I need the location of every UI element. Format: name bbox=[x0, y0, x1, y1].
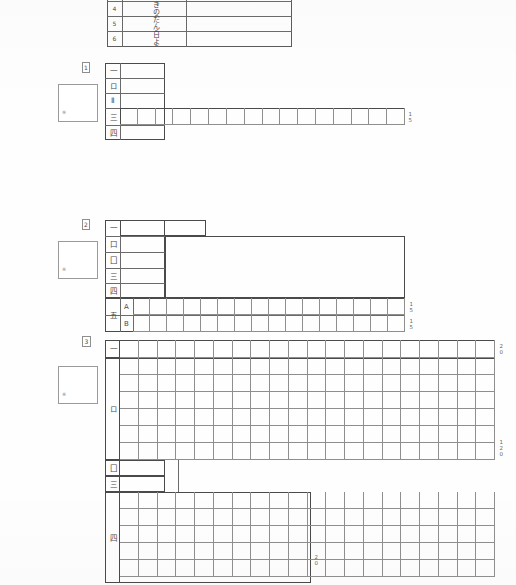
answer-cell[interactable] bbox=[326, 492, 345, 509]
answer-cell[interactable] bbox=[388, 315, 405, 332]
answer-cell[interactable] bbox=[176, 443, 195, 460]
answer-cell[interactable] bbox=[176, 492, 195, 509]
answer-cell[interactable] bbox=[371, 315, 388, 332]
answer-cell[interactable] bbox=[308, 426, 327, 443]
answer-cell[interactable] bbox=[251, 358, 270, 375]
answer-cell[interactable] bbox=[345, 426, 364, 443]
answer-cell[interactable] bbox=[371, 298, 388, 315]
answer-cell[interactable] bbox=[364, 509, 383, 526]
answer-cell[interactable] bbox=[214, 443, 233, 460]
block-two-right-panel[interactable] bbox=[165, 236, 405, 298]
answer-cell[interactable] bbox=[439, 543, 458, 560]
answer-cell[interactable] bbox=[158, 560, 177, 577]
answer-cell[interactable] bbox=[120, 509, 139, 526]
answer-cell[interactable] bbox=[195, 392, 214, 409]
answer-cell[interactable] bbox=[214, 409, 233, 426]
answer-cell[interactable] bbox=[289, 409, 308, 426]
answer-cell[interactable] bbox=[270, 560, 289, 577]
answer-cell[interactable] bbox=[195, 340, 214, 358]
answer-cell[interactable] bbox=[326, 543, 345, 560]
answer-cell[interactable] bbox=[326, 375, 345, 392]
answer-cell[interactable] bbox=[286, 315, 303, 332]
answer-cell[interactable] bbox=[364, 375, 383, 392]
answer-cell[interactable] bbox=[337, 298, 354, 315]
answer-cell[interactable] bbox=[326, 526, 345, 543]
answer-cell[interactable] bbox=[476, 543, 495, 560]
answer-cell[interactable] bbox=[176, 543, 195, 560]
answer-cell[interactable] bbox=[308, 509, 327, 526]
answer-cell[interactable] bbox=[270, 443, 289, 460]
answer-cell[interactable] bbox=[401, 340, 420, 358]
answer-cell[interactable] bbox=[298, 108, 316, 125]
answer-cell[interactable] bbox=[420, 543, 439, 560]
answer-cell[interactable] bbox=[251, 409, 270, 426]
answer-cell[interactable] bbox=[289, 526, 308, 543]
answer-cell[interactable] bbox=[158, 392, 177, 409]
answer-cell[interactable] bbox=[263, 108, 281, 125]
answer-cell[interactable] bbox=[476, 392, 495, 409]
answer-cell[interactable] bbox=[420, 526, 439, 543]
answer-cell[interactable] bbox=[120, 409, 139, 426]
answer-cell[interactable] bbox=[364, 409, 383, 426]
answer-cell[interactable] bbox=[289, 443, 308, 460]
answer-cell[interactable] bbox=[401, 509, 420, 526]
answer-cell[interactable] bbox=[289, 392, 308, 409]
answer-cell[interactable] bbox=[369, 108, 387, 125]
answer-cell[interactable] bbox=[458, 560, 477, 577]
answer-cell[interactable] bbox=[439, 392, 458, 409]
answer-cell[interactable] bbox=[308, 443, 327, 460]
answer-cell[interactable] bbox=[337, 315, 354, 332]
answer-cell[interactable] bbox=[439, 409, 458, 426]
answer-cell[interactable] bbox=[364, 443, 383, 460]
answer-cell[interactable] bbox=[270, 526, 289, 543]
answer-cell[interactable] bbox=[233, 426, 252, 443]
answer-cell[interactable] bbox=[270, 426, 289, 443]
answer-cell[interactable] bbox=[401, 543, 420, 560]
answer-cell[interactable] bbox=[383, 392, 402, 409]
answer-cell[interactable] bbox=[458, 375, 477, 392]
block-one-answer-grid[interactable] bbox=[120, 108, 405, 125]
answer-cell[interactable] bbox=[214, 375, 233, 392]
answer-cell[interactable] bbox=[233, 375, 252, 392]
answer-cell[interactable] bbox=[251, 560, 270, 577]
answer-cell[interactable] bbox=[420, 375, 439, 392]
answer-cell[interactable] bbox=[120, 375, 139, 392]
answer-cell[interactable] bbox=[354, 298, 371, 315]
answer-cell[interactable] bbox=[326, 426, 345, 443]
answer-cell[interactable] bbox=[308, 358, 327, 375]
answer-cell[interactable] bbox=[289, 358, 308, 375]
answer-cell[interactable] bbox=[214, 543, 233, 560]
answer-cell[interactable] bbox=[158, 443, 177, 460]
answer-cell[interactable] bbox=[458, 392, 477, 409]
answer-cell[interactable] bbox=[251, 340, 270, 358]
answer-cell[interactable] bbox=[326, 560, 345, 577]
block-two-grid-b[interactable] bbox=[133, 315, 405, 332]
answer-cell[interactable] bbox=[201, 315, 218, 332]
answer-cell[interactable] bbox=[334, 108, 352, 125]
answer-cell[interactable] bbox=[195, 543, 214, 560]
answer-cell[interactable] bbox=[120, 358, 139, 375]
answer-cell[interactable] bbox=[158, 340, 177, 358]
answer-cell[interactable] bbox=[214, 358, 233, 375]
answer-cell[interactable] bbox=[195, 443, 214, 460]
answer-cell[interactable] bbox=[458, 340, 477, 358]
answer-cell[interactable] bbox=[195, 492, 214, 509]
answer-cell[interactable] bbox=[195, 358, 214, 375]
answer-cell[interactable] bbox=[270, 492, 289, 509]
answer-cell[interactable] bbox=[401, 358, 420, 375]
answer-cell[interactable] bbox=[191, 108, 209, 125]
answer-cell[interactable] bbox=[308, 409, 327, 426]
answer-cell[interactable] bbox=[458, 409, 477, 426]
answer-cell[interactable] bbox=[352, 108, 370, 125]
answer-cell[interactable] bbox=[289, 509, 308, 526]
answer-cell[interactable] bbox=[476, 375, 495, 392]
answer-cell[interactable] bbox=[401, 426, 420, 443]
answer-cell[interactable] bbox=[176, 560, 195, 577]
answer-cell[interactable] bbox=[326, 509, 345, 526]
answer-cell[interactable] bbox=[476, 358, 495, 375]
answer-cell[interactable] bbox=[364, 543, 383, 560]
block-two-grid-a[interactable] bbox=[133, 298, 405, 315]
answer-cell[interactable] bbox=[308, 340, 327, 358]
answer-cell[interactable] bbox=[270, 543, 289, 560]
answer-cell[interactable] bbox=[289, 340, 308, 358]
